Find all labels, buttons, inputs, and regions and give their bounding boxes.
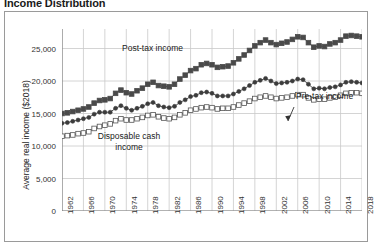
x-axis-tick: 1994 [237,196,246,214]
x-axis-tick: 1998 [258,196,267,214]
x-axis-tick: 2010 [323,196,332,214]
x-axis-tick: 2002 [280,196,289,214]
x-axis-tick: 1990 [216,196,225,214]
x-axis-tick: 1982 [173,196,182,214]
x-axis-tick: 1966 [87,196,96,214]
x-axis-tick: 1986 [194,196,203,214]
annotation-pre-tax-income: Pre-tax income [296,91,353,102]
x-axis-tick: 1978 [151,196,160,214]
x-axis-tick: 1970 [108,196,117,214]
x-axis-tick: 2018 [366,196,375,214]
x-axis-tick: 1962 [66,196,75,214]
x-axis-tick: 2006 [301,196,310,214]
annotation-post-tax-income: Post-tax income [122,43,183,54]
x-axis-tick: 1974 [130,196,139,214]
x-axis-tick: 2014 [344,196,353,214]
annotation-disposable-cash-income: Disposable cash income [90,131,168,153]
